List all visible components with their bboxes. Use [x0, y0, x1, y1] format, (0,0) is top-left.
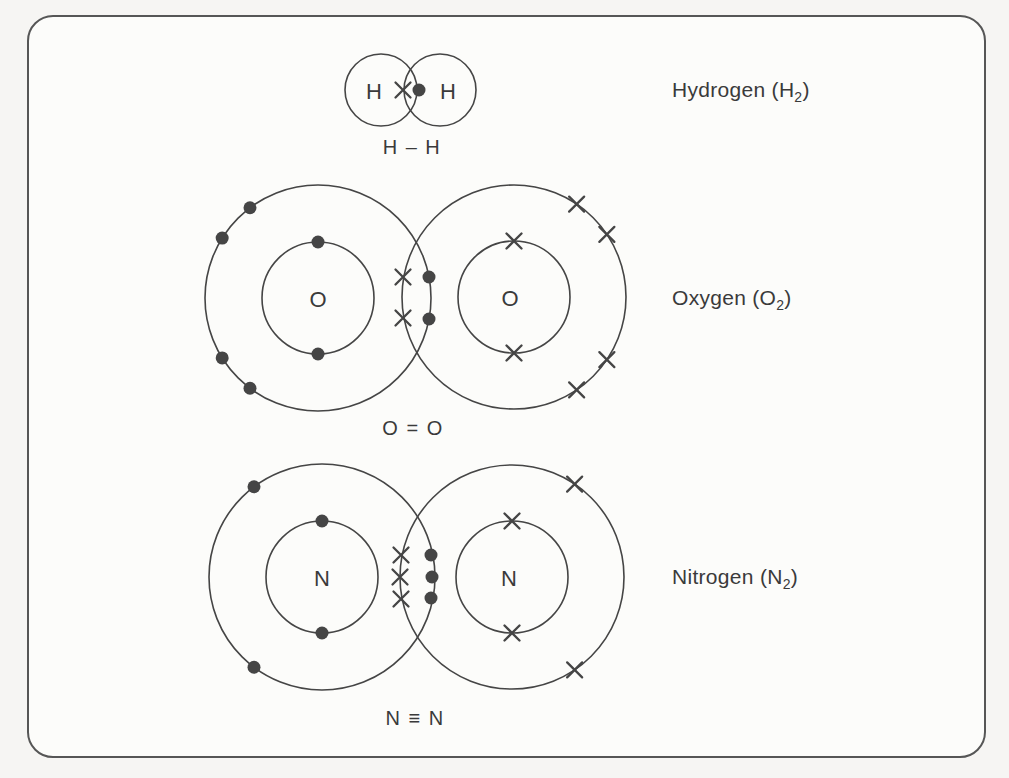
caption-suffix: ) — [791, 565, 798, 588]
electron-dot — [216, 351, 229, 364]
caption-text: Oxygen (O — [672, 286, 776, 309]
page: HHOONN Hydrogen (H2) Oxygen (O2) Nitroge… — [0, 0, 1009, 778]
atom-o: O — [205, 185, 431, 411]
electron-cross — [567, 477, 582, 492]
electron-dot — [426, 571, 439, 584]
atom-symbol: H — [440, 79, 456, 104]
electron-dot — [216, 232, 229, 245]
atom-symbol: O — [309, 287, 326, 312]
electron-cross — [569, 197, 584, 212]
electron-dot — [312, 348, 325, 361]
electron-dot — [243, 382, 256, 395]
atom-symbol: N — [501, 566, 517, 591]
electron-dot — [425, 549, 438, 562]
atom-h: H — [345, 54, 417, 126]
electron-dot — [247, 480, 260, 493]
molecule-hydrogen: HH — [345, 54, 476, 126]
caption-text: Nitrogen (N — [672, 565, 783, 588]
electron-cross — [569, 382, 584, 397]
electron-cross — [599, 227, 614, 242]
bond-label-oxygen: O = O — [382, 417, 443, 440]
electron-dot — [423, 313, 436, 326]
atom-symbol: H — [366, 79, 382, 104]
covalent-bonding-diagram: HHOONN — [0, 0, 1009, 778]
electron-dot — [413, 84, 426, 97]
bond-label-nitrogen: N ≡ N — [385, 707, 444, 730]
atom-o: O — [402, 185, 626, 409]
electron-dot — [423, 271, 436, 284]
electron-cross — [567, 662, 582, 677]
caption-suffix: ) — [784, 286, 791, 309]
electron-dot — [425, 592, 438, 605]
caption-oxygen: Oxygen (O2) — [672, 286, 792, 310]
caption-suffix: ) — [802, 78, 809, 101]
electron-dot — [247, 661, 260, 674]
electron-cross — [599, 352, 614, 367]
electron-dot — [312, 236, 325, 249]
atom-symbol: O — [501, 286, 518, 311]
molecule-nitrogen: NN — [209, 464, 624, 690]
caption-hydrogen: Hydrogen (H2) — [672, 78, 810, 102]
caption-subscript: 2 — [783, 576, 791, 592]
electron-dot — [316, 627, 329, 640]
electron-cross — [396, 83, 411, 98]
electron-dot — [316, 515, 329, 528]
electron-dot — [243, 201, 256, 214]
bond-label-hydrogen: H – H — [383, 136, 442, 159]
caption-nitrogen: Nitrogen (N2) — [672, 565, 798, 589]
caption-text: Hydrogen (H — [672, 78, 794, 101]
atom-symbol: N — [314, 566, 330, 591]
molecule-oxygen: OO — [205, 185, 626, 411]
